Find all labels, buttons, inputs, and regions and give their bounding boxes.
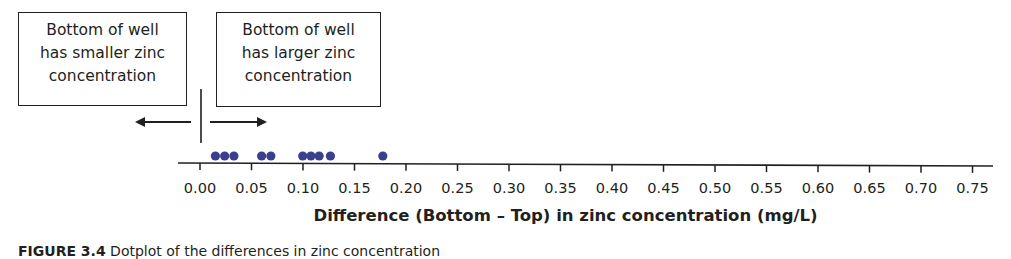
data-dot bbox=[266, 151, 275, 160]
x-tick-label: 0.25 bbox=[441, 180, 473, 196]
data-dot bbox=[326, 151, 335, 160]
x-tick-label: 0.60 bbox=[802, 180, 834, 196]
x-tick-label: 0.35 bbox=[544, 180, 576, 196]
x-tick-label: 0.40 bbox=[596, 180, 628, 196]
x-axis-line bbox=[178, 163, 993, 166]
x-tick-label: 0.10 bbox=[287, 180, 319, 196]
x-tick-label: 0.70 bbox=[905, 180, 937, 196]
x-tick-label: 0.50 bbox=[699, 180, 731, 196]
data-dot bbox=[298, 151, 307, 160]
data-dot bbox=[257, 151, 266, 160]
data-dot bbox=[315, 151, 324, 160]
x-tick-label: 0.20 bbox=[390, 180, 422, 196]
x-tick-label: 0.65 bbox=[853, 180, 885, 196]
data-dot bbox=[378, 151, 387, 160]
x-tick-label: 0.75 bbox=[956, 180, 988, 196]
caption-label: FIGURE 3.4 bbox=[18, 243, 106, 259]
x-tick-label: 0.00 bbox=[184, 180, 216, 196]
x-tick-label: 0.15 bbox=[338, 180, 370, 196]
x-tick-label: 0.45 bbox=[647, 180, 679, 196]
data-dot bbox=[229, 151, 238, 160]
data-dot bbox=[306, 151, 315, 160]
x-tick-label: 0.55 bbox=[750, 180, 782, 196]
data-dots bbox=[211, 151, 388, 160]
x-tick-label: 0.30 bbox=[493, 180, 525, 196]
data-dot bbox=[211, 151, 220, 160]
figure-caption: FIGURE 3.4 Dotplot of the differences in… bbox=[18, 243, 440, 259]
x-axis-title: Difference (Bottom – Top) in zinc concen… bbox=[0, 206, 1011, 225]
data-dot bbox=[220, 151, 229, 160]
x-tick-label: 0.05 bbox=[235, 180, 267, 196]
x-axis-ticks: 0.000.050.100.150.200.250.300.350.400.45… bbox=[184, 163, 989, 196]
caption-text: Dotplot of the differences in zinc conce… bbox=[110, 243, 440, 259]
